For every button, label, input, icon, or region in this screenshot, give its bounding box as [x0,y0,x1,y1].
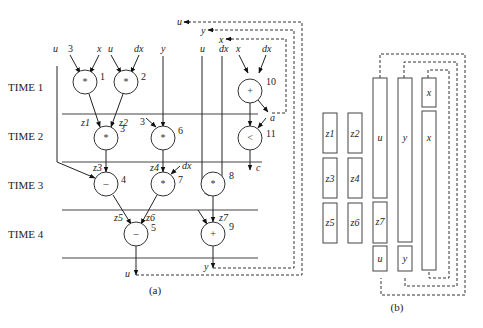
node-10: + 10 [238,76,276,103]
input-dx3: dx [262,43,272,54]
svg-text:z5: z5 [325,217,335,228]
time-label-3: TIME 3 [8,179,44,191]
svg-text:z4: z4 [350,173,360,184]
time-label-1: TIME 1 [8,81,43,93]
svg-text:z1: z1 [325,128,335,139]
caption-b: (b) [391,301,404,314]
edge-x-to-1 [90,55,99,73]
time-label-4: TIME 4 [8,228,44,240]
svg-text:6: 6 [178,125,183,136]
svg-text:3: 3 [120,123,125,134]
caption-a: (a) [149,284,162,297]
label-z5: z5 [113,212,123,223]
node-2: * 2 [114,70,146,94]
edge-y-to-9 [198,210,207,224]
svg-text:+: + [247,85,253,96]
figure-b: z1 z3 z5 z2 z4 z6 u z7 u y y x x (b) [323,54,465,314]
input-u1: u [53,43,58,54]
node-9: + 9 [201,221,234,246]
edge-3-to-6 [146,118,156,127]
register-y [398,78,412,242]
node-4: – 4 [94,172,126,196]
input-x: x [96,43,102,54]
svg-text:x: x [426,132,432,143]
edge-dx-to-2 [131,55,139,73]
svg-text:*: * [104,132,109,143]
label-z7: z7 [218,212,229,223]
edge-3-to-1 [70,55,80,73]
label-a: a [270,112,275,123]
svg-text:z2: z2 [350,128,360,139]
node-3: * 3 [94,123,125,150]
svg-text:z6: z6 [350,217,360,228]
svg-text:*: * [211,178,216,189]
node-7: * 7 [151,172,183,196]
feedback-label-x: x [218,34,224,45]
edge-dx-to-10 [259,55,266,73]
node-6: * 6 [151,125,183,150]
svg-text:7: 7 [178,174,183,185]
svg-text:*: * [161,178,166,189]
input-y: y [160,43,166,54]
svg-text:5: 5 [151,222,156,233]
diagram-canvas: TIME 1 TIME 2 TIME 3 TIME 4 u 3 x u dx y… [0,0,483,328]
label-c: c [256,162,261,173]
svg-text:–: – [133,228,140,239]
input-x2: x [235,43,241,54]
node-5: – 5 [124,222,156,246]
feedback-label-u: u [177,16,182,27]
svg-text:u: u [378,253,383,264]
svg-text:1: 1 [100,71,105,82]
svg-text:–: – [103,178,110,189]
label-3: 3 [140,116,145,127]
svg-text:*: * [161,132,166,143]
svg-text:8: 8 [229,170,234,181]
edge-x-to-10 [239,55,248,73]
output-y: y [203,261,209,272]
label-z3: z3 [92,162,102,173]
svg-text:z7: z7 [375,216,386,227]
input-dx1: dx [134,43,144,54]
svg-text:y: y [402,132,408,143]
node-1: * 1 [73,70,105,94]
svg-text:x: x [426,87,432,98]
edge-dx-to-7 [171,166,180,174]
svg-text:*: * [124,76,129,87]
input-u2: u [108,43,113,54]
svg-text:u: u [378,132,383,143]
edge-1-to-3 [89,94,100,127]
svg-text:y: y [402,253,408,264]
svg-text:<: < [247,132,253,143]
svg-text:4: 4 [121,174,126,185]
edge-10-to-a [258,100,268,112]
svg-text:11: 11 [266,128,276,139]
output-u: u [125,268,130,279]
svg-text:9: 9 [229,221,234,232]
node-8: * 8 [201,170,234,196]
svg-text:*: * [83,76,88,87]
figure-a: TIME 1 TIME 2 TIME 3 TIME 4 u 3 x u dx y… [8,16,302,297]
time-label-2: TIME 2 [8,130,43,142]
node-11: < 11 [238,126,276,150]
edge-u-to-2 [111,55,121,73]
feedback-label-y: y [200,25,206,36]
svg-text:+: + [210,228,216,239]
scheduling-diagram: TIME 1 TIME 2 TIME 3 TIME 4 u 3 x u dx y… [0,0,483,328]
svg-text:10: 10 [266,76,276,87]
label-z4: z4 [149,162,159,173]
input-3: 3 [68,43,73,54]
input-u3: u [200,43,205,54]
svg-text:2: 2 [141,71,146,82]
edge-a-to-11 [258,118,266,128]
label-z1: z1 [80,117,90,128]
svg-text:z3: z3 [325,173,335,184]
label-dx: dx [182,160,192,171]
